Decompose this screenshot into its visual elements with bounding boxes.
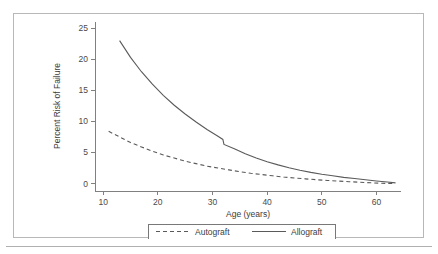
y-tick-label: 25 bbox=[79, 23, 89, 33]
y-tick-label: 5 bbox=[83, 147, 88, 157]
x-tick-label: 40 bbox=[262, 197, 272, 207]
y-tick-label: 10 bbox=[79, 116, 89, 126]
series-line-allograft bbox=[120, 41, 396, 183]
legend-label-allograft: Allograft bbox=[291, 227, 323, 237]
y-axis-ticks: 0510152025 bbox=[79, 23, 95, 188]
x-tick-label: 10 bbox=[98, 197, 108, 207]
chart-legend: Autograft Allograft bbox=[148, 224, 335, 239]
series-line-autograft bbox=[109, 131, 393, 183]
x-tick-label: 30 bbox=[208, 197, 218, 207]
chart-canvas: 0510152025 102030405060 Percent Risk of … bbox=[14, 14, 425, 239]
x-axis-ticks: 102030405060 bbox=[98, 191, 381, 207]
y-axis-title: Percent Risk of Failure bbox=[52, 63, 62, 149]
y-tick-label: 20 bbox=[79, 54, 89, 64]
y-tick-label: 0 bbox=[83, 179, 88, 189]
figure-frame: 0510152025 102030405060 Percent Risk of … bbox=[13, 13, 424, 238]
legend-label-autograft: Autograft bbox=[195, 227, 230, 237]
x-tick-label: 20 bbox=[153, 197, 163, 207]
x-tick-label: 60 bbox=[372, 197, 382, 207]
x-axis-title: Age (years) bbox=[226, 209, 270, 219]
series-group bbox=[109, 41, 396, 184]
axes-group bbox=[95, 22, 401, 191]
y-tick-label: 15 bbox=[79, 85, 89, 95]
bottom-separator-rule bbox=[6, 246, 432, 247]
x-tick-label: 50 bbox=[317, 197, 327, 207]
